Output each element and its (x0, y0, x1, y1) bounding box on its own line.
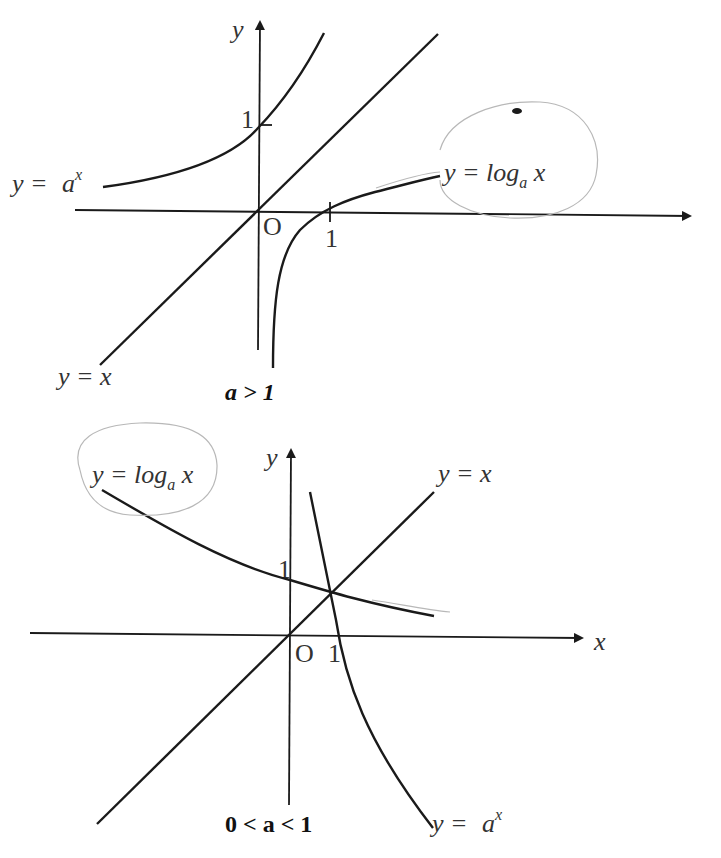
logarithm-curve (273, 176, 440, 368)
exponential-curve (103, 33, 324, 187)
y-axis-label: y (229, 15, 244, 44)
identity-label: y = x (435, 459, 492, 488)
x-axis-label: x (593, 627, 606, 656)
caption: a > 1 (225, 379, 275, 405)
y-axis (289, 450, 291, 805)
identity-label: y = x (55, 362, 112, 391)
diagram-a-greater-than-1: y 1 1 O y = x y = ax y = loga x a > 1 (9, 15, 690, 405)
origin-label: O (295, 639, 314, 668)
x-axis (30, 633, 582, 638)
origin-label: O (263, 212, 282, 241)
y-axis-label: y (263, 443, 278, 472)
log-label: y = loga x (89, 460, 194, 493)
x-tick-label: 1 (325, 224, 338, 253)
x-axis (75, 210, 690, 216)
diagram-a-between-0-and-1: x y 1 O 1 y = x y = loga x y = ax 0 < a … (30, 423, 606, 838)
ink-dot (512, 108, 522, 114)
y-tick-label: 1 (241, 105, 254, 134)
logarithm-curve (102, 490, 434, 616)
pencil-trace (376, 172, 440, 188)
exp-label: y = ax (9, 166, 82, 198)
identity-line (100, 34, 438, 365)
identity-line (97, 492, 434, 824)
diagram-canvas: y 1 1 O y = x y = ax y = loga x a > 1 x … (0, 0, 721, 858)
caption: 0 < a < 1 (225, 811, 312, 837)
exp-label: y = ax (429, 806, 502, 838)
log-label: y = loga x (441, 158, 546, 191)
y-axis (258, 22, 260, 350)
